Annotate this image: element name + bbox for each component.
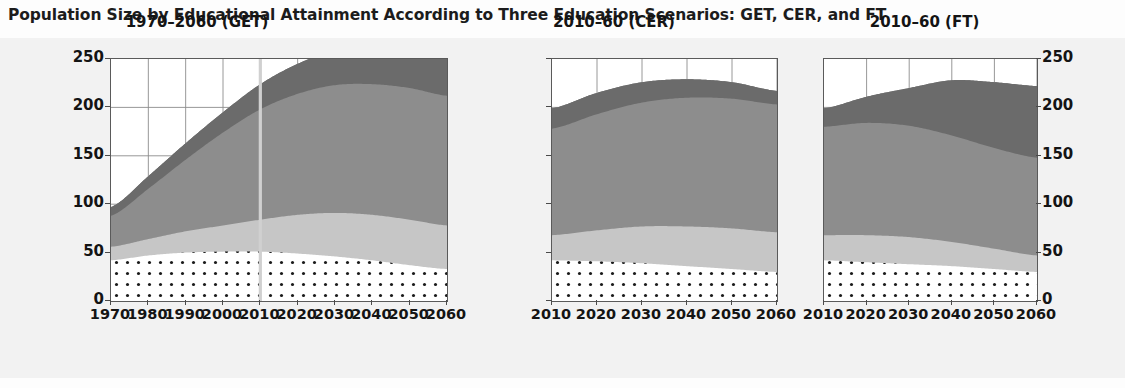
panel-title-ft: 2010–60 (FT) (762, 13, 1087, 31)
x-tick-label: 1980 (127, 306, 167, 322)
x-tick-mark (222, 300, 223, 305)
x-tick-label: 2050 (711, 306, 751, 322)
plot-area-get[interactable] (110, 58, 448, 302)
x-tick-mark (334, 300, 335, 305)
y-tick-mark (1036, 106, 1041, 107)
x-tick-mark (731, 300, 732, 305)
x-tick-mark (371, 300, 372, 305)
area-chart-ft (824, 59, 1037, 301)
panel-cer: 2010–60 (CER) 201020202030204020502060 (500, 0, 800, 340)
y-tick-mark (105, 203, 110, 204)
x-tick-label: 2020 (276, 306, 316, 322)
x-tick-label: 2030 (888, 306, 928, 322)
x-tick-label: 2060 (426, 306, 466, 322)
x-tick-mark (297, 300, 298, 305)
y-tick-mark (546, 155, 551, 156)
x-tick-mark (185, 300, 186, 305)
x-tick-mark (446, 300, 447, 305)
x-tick-label: 2000 (202, 306, 242, 322)
y-tick-mark (1036, 203, 1041, 204)
y-tick-mark (105, 300, 110, 301)
x-tick-mark (409, 300, 410, 305)
x-tick-mark (551, 300, 552, 305)
x-tick-label: 2010 (531, 306, 571, 322)
y-tick-mark (546, 106, 551, 107)
x-tick-mark (866, 300, 867, 305)
figure-root: Population Size by Educational Attainmen… (0, 0, 1125, 388)
x-tick-label: 2020 (845, 306, 885, 322)
x-tick-mark (641, 300, 642, 305)
y-tick-mark (546, 203, 551, 204)
plot-area-cer[interactable] (551, 58, 778, 302)
x-tick-label: 2040 (931, 306, 971, 322)
x-tick-label: 2010 (803, 306, 843, 322)
y-tick-mark (546, 300, 551, 301)
x-tick-label: 2040 (351, 306, 391, 322)
y-tick-mark (546, 252, 551, 253)
x-tick-mark (686, 300, 687, 305)
x-tick-mark (776, 300, 777, 305)
y-tick-mark (1036, 300, 1041, 301)
x-tick-label: 1970 (90, 306, 130, 322)
x-tick-label: 2060 (1016, 306, 1056, 322)
x-tick-mark (259, 300, 260, 305)
panel-title-cer: 2010–60 (CER) (464, 13, 764, 31)
x-tick-label: 2020 (576, 306, 616, 322)
x-tick-mark (110, 300, 111, 305)
x-tick-mark (951, 300, 952, 305)
x-tick-label: 2010 (239, 306, 279, 322)
x-tick-mark (993, 300, 994, 305)
x-tick-mark (823, 300, 824, 305)
x-tick-label: 2030 (621, 306, 661, 322)
area-chart-cer (552, 59, 777, 301)
y-tick-mark (105, 252, 110, 253)
y-tick-mark (1036, 155, 1041, 156)
y-tick-mark (105, 106, 110, 107)
y-tick-mark (546, 58, 551, 59)
x-tick-label: 2060 (756, 306, 796, 322)
y-tick-mark (105, 155, 110, 156)
x-tick-label: 1990 (164, 306, 204, 322)
panel-get: 1970–2060 (GET) 197019801990200020102020… (0, 0, 500, 340)
x-tick-mark (908, 300, 909, 305)
x-tick-mark (147, 300, 148, 305)
panel-ft: 2010–60 (FT) 201020202030204020502060 (800, 0, 1125, 340)
x-tick-label: 2040 (666, 306, 706, 322)
x-tick-mark (596, 300, 597, 305)
area-chart-get (111, 59, 447, 301)
x-tick-label: 2030 (314, 306, 354, 322)
y-tick-mark (1036, 58, 1041, 59)
y-tick-mark (105, 58, 110, 59)
x-tick-label: 2050 (973, 306, 1013, 322)
plot-area-ft[interactable] (823, 58, 1038, 302)
y-tick-mark (1036, 252, 1041, 253)
panel-title-get: 1970–2060 (GET) (0, 13, 447, 31)
x-tick-label: 2050 (388, 306, 428, 322)
